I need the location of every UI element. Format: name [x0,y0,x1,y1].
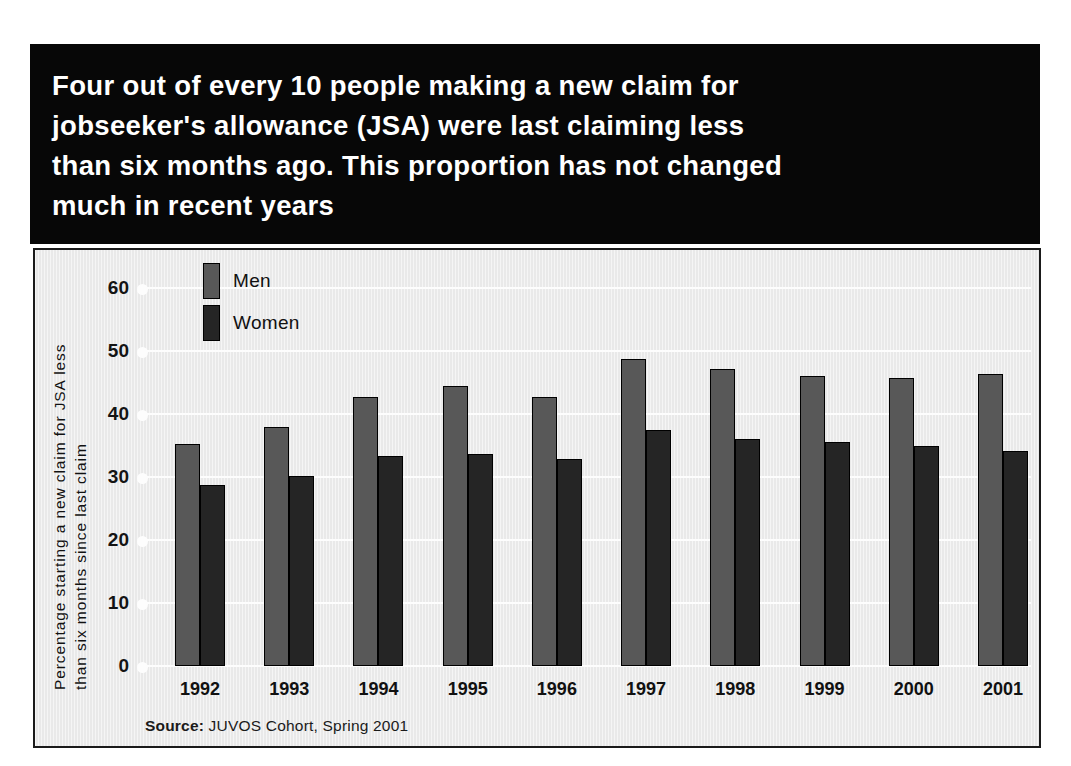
legend-label-women: Women [233,312,300,334]
y-axis-tick-label: 20 [108,529,129,551]
bar-women-1996 [557,459,582,666]
bar-women-1995 [468,454,493,666]
bar-women-1997 [646,430,671,666]
y-axis-tick-label: 0 [118,655,129,677]
y-axis-tick-label: 60 [108,277,129,299]
bar-women-1999 [825,442,850,666]
figure-root: Four out of every 10 people making a new… [0,0,1071,766]
bar-men-1998 [710,369,735,666]
source-label: Source: [145,717,204,734]
source-value: JUVOS Cohort, Spring 2001 [204,717,408,734]
legend-swatch-women [203,305,220,341]
legend-swatch-men [203,263,220,299]
bar-women-2001 [1003,451,1028,666]
y-axis-title-line-1: Percentage starting a new claim for JSA … [51,344,69,690]
legend-item-women: Women [203,302,300,344]
chart-panel: Percentage starting a new claim for JSA … [33,248,1041,748]
chart-legend: MenWomen [203,260,300,344]
bar-men-1997 [621,359,646,666]
bar-men-1994 [353,397,378,666]
bar-men-1993 [264,427,289,666]
x-axis-tick-label-1992: 1992 [180,679,220,700]
legend-label-men: Men [233,270,271,292]
y-axis-title: Percentage starting a new claim for JSA … [49,260,95,690]
y-axis-title-line-2: than six months since last claim [72,443,90,690]
bar-women-1993 [289,476,314,666]
y-axis-tick-label: 10 [108,592,129,614]
gridline [143,350,1031,352]
legend-item-men: Men [203,260,300,302]
y-axis-tick-dot [137,284,148,295]
bar-men-1996 [532,397,557,666]
bar-women-1998 [735,439,760,666]
bar-men-1999 [800,376,825,666]
y-axis-tick-dot [137,473,148,484]
x-axis-tick-label-2001: 2001 [983,679,1023,700]
bar-women-1994 [378,456,403,666]
bar-women-2000 [914,446,939,667]
y-axis-tick-label: 30 [108,466,129,488]
x-axis-tick-label-1993: 1993 [269,679,309,700]
x-axis-tick-label-1999: 1999 [805,679,845,700]
bar-men-1995 [443,386,468,666]
plot-area: 0102030405060 19921993199419951996199719… [143,288,1031,666]
bar-men-2000 [889,378,914,666]
x-axis-tick-label-1998: 1998 [715,679,755,700]
source-note: Source: JUVOS Cohort, Spring 2001 [145,717,408,735]
bar-men-1992 [175,444,200,666]
y-axis-tick-dot [137,410,148,421]
x-axis-tick-label-1995: 1995 [448,679,488,700]
x-axis-tick-label-1994: 1994 [358,679,398,700]
y-axis-tick-label: 40 [108,403,129,425]
y-axis-tick-dot [137,347,148,358]
x-axis-tick-label-1996: 1996 [537,679,577,700]
bar-men-2001 [978,374,1003,666]
bar-women-1992 [200,485,225,666]
y-axis-tick-label: 50 [108,340,129,362]
page-title: Four out of every 10 people making a new… [52,66,1014,226]
x-axis-tick-label-2000: 2000 [894,679,934,700]
y-axis-tick-dot [137,662,148,673]
title-banner: Four out of every 10 people making a new… [30,44,1040,244]
x-axis-tick-label-1997: 1997 [626,679,666,700]
y-axis-tick-dot [137,599,148,610]
y-axis-tick-dot [137,536,148,547]
